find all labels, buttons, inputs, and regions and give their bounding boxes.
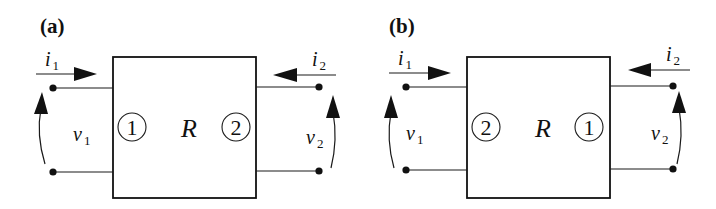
voltage-arrow-left-a	[34, 92, 48, 164]
block-label-b: R	[534, 114, 551, 143]
terminal-left-bottom-a	[49, 168, 56, 175]
voltage-label-right-a: v2	[306, 126, 323, 151]
panel-b: (b) i1 i2 v1	[384, 14, 690, 198]
arrow-up-icon	[672, 91, 686, 113]
voltage-arrow-right-b	[672, 91, 686, 164]
arrow-right-icon	[74, 67, 97, 81]
terminal-right-top-b	[669, 82, 676, 89]
terminal-right-bottom-b	[669, 165, 676, 172]
current-label-left-b: i1	[398, 47, 412, 72]
voltage-label-right-b: v2	[651, 122, 668, 147]
arrow-up-icon	[384, 95, 398, 118]
current-label-right-b: i2	[666, 43, 680, 68]
voltage-label-left-a: v1	[73, 123, 90, 148]
arrow-up-icon	[326, 95, 340, 118]
voltage-arrow-right-a	[326, 95, 340, 168]
arrow-right-icon	[428, 66, 451, 80]
port-number-left-b: 2	[481, 115, 492, 140]
port-number-right-b: 1	[584, 115, 595, 140]
arrow-left-icon	[628, 63, 651, 77]
port-number-right-a: 2	[231, 115, 242, 140]
terminal-left-bottom-b	[402, 166, 409, 173]
terminal-right-top-a	[315, 83, 322, 90]
panel-b-label: (b)	[389, 14, 415, 38]
block-label-a: R	[180, 114, 197, 143]
terminal-left-top-b	[402, 83, 409, 90]
voltage-label-left-b: v1	[406, 122, 423, 147]
terminal-left-top-a	[49, 84, 56, 91]
arrow-up-icon	[34, 92, 48, 114]
terminal-right-bottom-a	[315, 167, 322, 174]
current-arrow-right-a	[273, 68, 336, 82]
current-label-left-a: i1	[45, 48, 59, 73]
arrow-left-icon	[273, 68, 297, 82]
port-number-left-a: 1	[127, 115, 138, 140]
panel-a-label: (a)	[40, 14, 65, 38]
two-port-diagram: (a) i1 i2 v1	[0, 0, 716, 209]
voltage-arrow-left-b	[384, 95, 398, 168]
current-label-right-a: i2	[312, 48, 326, 73]
panel-a: (a) i1 i2 v1	[34, 14, 340, 198]
current-arrow-right-b	[628, 63, 690, 77]
